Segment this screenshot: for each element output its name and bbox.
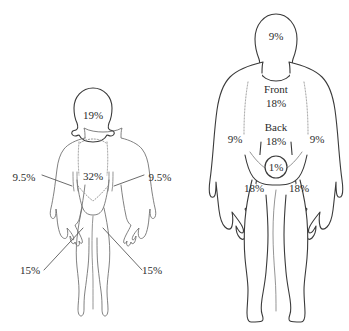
adult-front-value: 18% (266, 97, 286, 109)
adult-front-title: Front (264, 83, 288, 95)
burn-chart-diagram: 19% 32% 9.5% 9.5% 15% 15% 9% Front 18% B… (0, 0, 349, 331)
child-arm-right-label: 9.5% (149, 171, 172, 183)
adult-head-label: 9% (269, 30, 284, 42)
child-arm-left-label: 9.5% (13, 171, 36, 183)
body-figures-artwork (0, 0, 349, 331)
child-trunk-label: 32% (83, 170, 103, 182)
child-leader-leg-left (44, 228, 83, 270)
child-head-label: 19% (83, 109, 103, 121)
child-trunk-divider-right (107, 142, 108, 175)
child-leader-arm-right (114, 175, 144, 186)
adult-leg-right-label: 18% (289, 182, 309, 194)
child-leader-leg-right (103, 228, 142, 270)
child-body-outline (42, 88, 156, 316)
adult-groin-label: 1% (269, 161, 284, 173)
child-leg-left-label: 15% (20, 264, 40, 276)
adult-leg-left-label: 18% (244, 182, 264, 194)
adult-arm-right-label: 9% (310, 133, 325, 145)
child-leg-right-label: 15% (142, 264, 162, 276)
adult-back-value: 18% (266, 135, 286, 147)
child-trunk-divider-left (78, 142, 79, 175)
adult-arm-left-label: 9% (228, 133, 243, 145)
child-leader-arm-left (42, 175, 72, 186)
adult-back-title: Back (265, 121, 288, 133)
